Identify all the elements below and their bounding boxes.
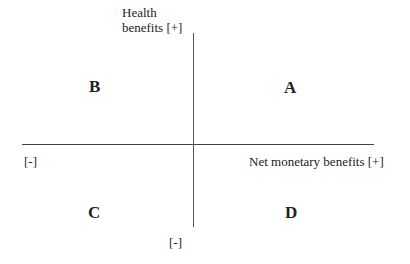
quadrant-a-label: A	[284, 79, 296, 96]
y-axis-line	[193, 33, 194, 227]
quadrant-b-label: B	[89, 78, 100, 95]
quadrant-c-label: C	[88, 204, 100, 221]
y-axis-positive-label: Health benefits [+]	[122, 5, 182, 35]
y-axis-positive-label-line1: Health	[122, 5, 182, 20]
x-axis-negative-label: [-]	[24, 154, 37, 169]
x-axis-line	[22, 144, 374, 145]
x-axis-positive-label: Net monetary benefits [+]	[249, 154, 384, 169]
quadrant-d-label: D	[285, 204, 297, 221]
y-axis-negative-label: [-]	[169, 235, 182, 250]
y-axis-positive-label-line2: benefits [+]	[122, 20, 182, 35]
